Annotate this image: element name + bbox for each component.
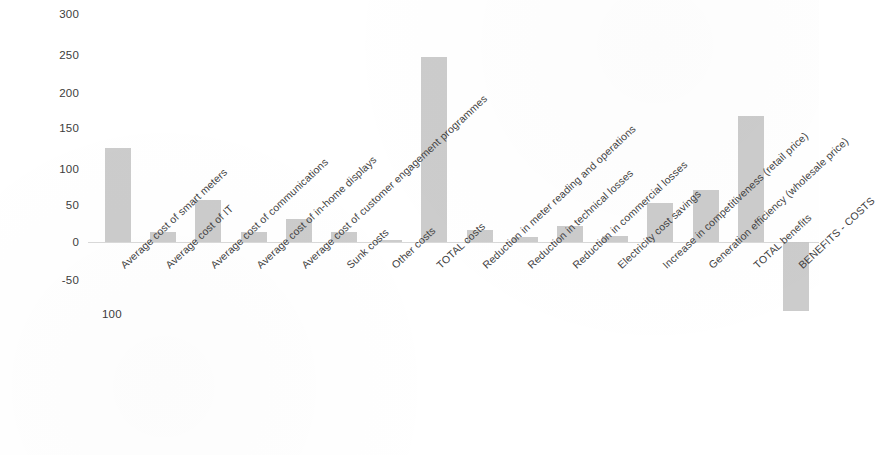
y-tick-0: 0 — [72, 236, 79, 248]
y-tick-100: 100 — [59, 163, 79, 175]
y-tick-150: 150 — [59, 122, 79, 134]
bar[interactable] — [105, 148, 131, 242]
y-tick-200: 200 — [59, 87, 79, 99]
y-tick-minus-50: -50 — [62, 274, 79, 286]
y-tick-minus-100: 100 — [102, 308, 122, 320]
y-tick-300: 300 — [59, 8, 79, 20]
y-tick-50: 50 — [66, 199, 79, 211]
y-tick-250: 250 — [59, 49, 79, 61]
